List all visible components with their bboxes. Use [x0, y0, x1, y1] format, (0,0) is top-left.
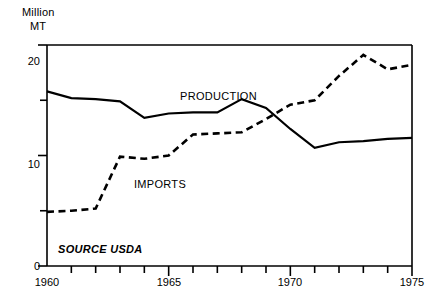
- plot-area: [0, 0, 435, 308]
- x-axis-ticks: [71, 266, 412, 276]
- series-line-production: [47, 91, 412, 147]
- series-line-imports: [47, 55, 412, 212]
- y-axis-ticks: [38, 45, 47, 266]
- axis-frame: [47, 45, 412, 266]
- chart-container: Million MT 20 10 0 1960 1965 1970 1975 P…: [0, 0, 435, 308]
